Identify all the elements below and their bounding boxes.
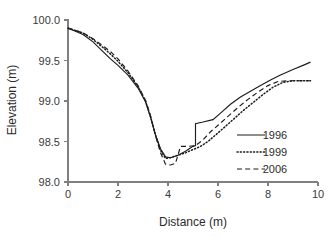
elevation-profile-chart: 98.098.599.099.5100.0 0246810 Elevation …	[0, 0, 335, 243]
x-axis-ticks: 0246810	[65, 182, 324, 200]
chart-legend: 199619992006	[237, 129, 287, 175]
x-tick-label: 4	[165, 188, 171, 200]
data-series-group	[68, 28, 311, 165]
x-tick-label: 2	[115, 188, 121, 200]
x-tick-label: 10	[312, 188, 324, 200]
y-tick-label: 98.0	[39, 176, 60, 188]
x-tick-label: 8	[265, 188, 271, 200]
y-tick-label: 100.0	[32, 14, 60, 26]
legend-label-1999: 1999	[263, 146, 287, 158]
x-tick-label: 6	[215, 188, 221, 200]
x-axis-title: Distance (m)	[159, 215, 227, 229]
legend-label-2006: 2006	[263, 163, 287, 175]
y-axis-title: Elevation (m)	[5, 65, 19, 136]
y-tick-label: 99.0	[39, 95, 60, 107]
y-tick-label: 98.5	[39, 136, 60, 148]
y-tick-label: 99.5	[39, 55, 60, 67]
legend-label-1996: 1996	[263, 129, 287, 141]
y-axis-ticks: 98.098.599.099.5100.0	[32, 14, 68, 188]
x-tick-label: 0	[65, 188, 71, 200]
chart-plot-area: 98.098.599.099.5100.0 0246810 Elevation …	[0, 0, 335, 243]
